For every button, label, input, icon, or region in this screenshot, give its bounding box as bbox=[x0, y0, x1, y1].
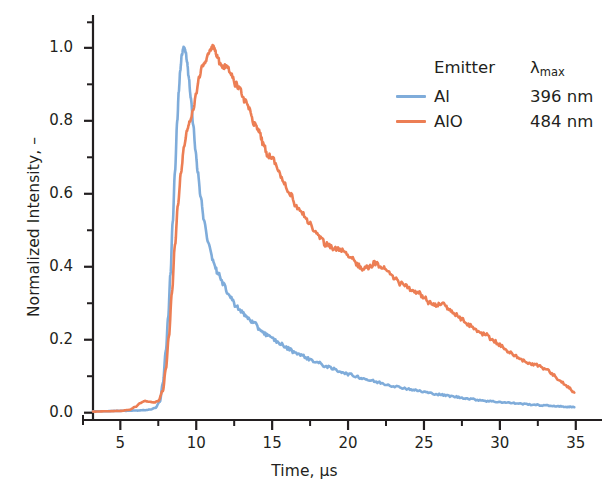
legend-header: Emitter λmax bbox=[396, 58, 601, 84]
x-tick-label: 10 bbox=[174, 434, 218, 452]
legend-row-alo: AlO 484 nm bbox=[396, 109, 601, 134]
legend-label-al: Al bbox=[434, 87, 530, 106]
x-axis-label: Time, µs bbox=[0, 462, 609, 480]
y-axis-label: Normalized Intensity, – bbox=[25, 97, 43, 357]
legend-swatch-al bbox=[396, 95, 426, 98]
legend-swatch-cell-al bbox=[396, 95, 434, 98]
line-chart-figure: Normalized Intensity, – Time, µs Emitter… bbox=[0, 0, 609, 487]
x-tick-label: 20 bbox=[326, 434, 370, 452]
y-tick-label: 0.4 bbox=[29, 257, 73, 275]
y-tick-label: 0.0 bbox=[29, 403, 73, 421]
lambda-symbol: λ bbox=[530, 58, 540, 77]
legend-value-alo: 484 nm bbox=[530, 112, 593, 131]
x-tick-label: 5 bbox=[98, 434, 142, 452]
y-tick-label: 0.2 bbox=[29, 330, 73, 348]
legend-row-al: Al 396 nm bbox=[396, 84, 601, 109]
x-tick-label: 35 bbox=[554, 434, 598, 452]
legend-swatch-alo bbox=[396, 120, 426, 123]
lambda-subscript: max bbox=[540, 65, 565, 79]
x-tick-label: 30 bbox=[478, 434, 522, 452]
legend-swatch-cell-alo bbox=[396, 120, 434, 123]
chart-legend: Emitter λmax Al 396 nm AlO 484 nm bbox=[396, 58, 601, 134]
x-tick-label: 25 bbox=[402, 434, 446, 452]
legend-header-lambda-max: λmax bbox=[530, 58, 565, 79]
x-tick-label: 15 bbox=[250, 434, 294, 452]
y-tick-label: 0.6 bbox=[29, 184, 73, 202]
legend-label-alo: AlO bbox=[434, 112, 530, 131]
legend-value-al: 396 nm bbox=[530, 87, 593, 106]
y-tick-label: 1.0 bbox=[29, 38, 73, 56]
y-tick-label: 0.8 bbox=[29, 111, 73, 129]
legend-header-emitter: Emitter bbox=[434, 58, 530, 77]
